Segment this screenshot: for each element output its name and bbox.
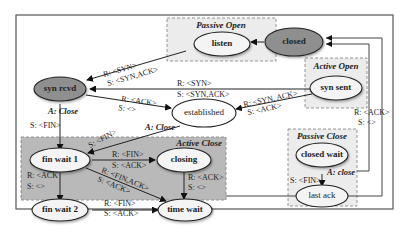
label-synsent-synrcvd-r: R: <SYN> [177,79,212,88]
svg-text:syn rcvd: syn rcvd [44,83,77,93]
label-closing-timewait-r: R: <ACK> [188,173,224,182]
svg-text:fin wait 1: fin wait 1 [42,154,79,164]
node-fin-wait-2: fin wait 2 [32,199,88,221]
node-closing: closing [157,148,211,172]
label-synrcvd-finwait1-a: A: Close [47,106,78,116]
label-established-finwait1-a: A: Close [144,122,175,132]
label-finwait2-timewait-s: S: <ACK> [104,209,139,218]
label-lastack-closed-s: S: <> [358,118,376,127]
group-title-passive-close: Passive Close [297,131,347,141]
svg-text:established: established [184,107,224,117]
group-title-active-open: Active Open [312,61,358,71]
group-title-active-close: Active Close [175,138,222,148]
node-closed-wait: closed wait [296,143,348,167]
label-lastack-closed-r: R: <ACK> [354,108,390,117]
node-closed: closed [265,28,323,56]
label-finwait1-closing-s: S: <ACK> [112,161,147,170]
tcp-state-diagram: Passive Open Active Open Active Close Pa… [0,0,412,248]
label-finwait1-finwait2-r: R: <ACK [27,171,58,180]
label-finwait1-closing-r: R: <FIN> [112,150,144,159]
label-finwait2-timewait-r: R: <FIN> [104,199,136,208]
node-fin-wait-1: fin wait 1 [30,148,90,172]
svg-text:last ack: last ack [308,190,336,200]
label-finwait1-finwait2-s: S: <> [27,182,45,191]
node-listen: listen [194,32,250,56]
label-closedwait-lastack-a: A: close [326,167,355,177]
label-closedwait-lastack-s: S: <FIN> [290,176,321,185]
svg-text:time wait: time wait [167,204,203,214]
svg-text:closing: closing [171,154,198,164]
label-closing-timewait-s: S: <> [188,183,206,192]
node-established: established [172,99,236,127]
svg-text:listen: listen [212,38,233,48]
node-syn-sent: syn sent [310,76,362,100]
node-time-wait: time wait [158,199,212,221]
svg-text:closed: closed [282,36,306,46]
svg-text:fin wait 2: fin wait 2 [42,204,79,214]
svg-text:closed wait: closed wait [301,149,343,159]
label-synsent-synrcvd-s: S: <SYN,ACK> [177,90,230,99]
svg-text:syn sent: syn sent [321,82,352,92]
group-title-passive-open: Passive Open [196,20,246,30]
label-synrcvd-finwait1-s: S: <FIN> [30,121,61,130]
node-last-ack: last ack [296,185,348,207]
node-syn-rcvd: syn rcvd [34,77,86,101]
